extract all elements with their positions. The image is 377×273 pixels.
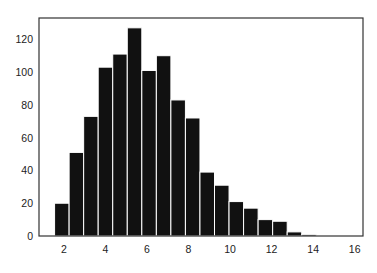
y-tick-label: 120 bbox=[15, 33, 33, 45]
histogram-bar bbox=[98, 67, 113, 236]
histogram-bar bbox=[142, 70, 157, 236]
histogram-bar bbox=[200, 172, 215, 236]
x-tick-label: 2 bbox=[61, 243, 67, 255]
y-axis-ticks: 020406080100120 bbox=[15, 33, 33, 242]
y-tick-label: 0 bbox=[27, 230, 33, 242]
histogram-bar bbox=[156, 56, 171, 236]
x-tick-label: 6 bbox=[144, 243, 150, 255]
y-tick-label: 60 bbox=[21, 132, 33, 144]
histogram-bar bbox=[273, 221, 288, 236]
histogram-bar bbox=[84, 116, 99, 236]
y-tick-label: 80 bbox=[21, 99, 33, 111]
y-tick-label: 40 bbox=[21, 164, 33, 176]
x-tick-label: 14 bbox=[307, 243, 319, 255]
y-tick-label: 20 bbox=[21, 197, 33, 209]
x-axis-ticks: 246810121416 bbox=[61, 243, 361, 255]
histogram-bar bbox=[244, 208, 259, 236]
histogram-bar bbox=[113, 54, 128, 236]
histogram-bar bbox=[55, 203, 70, 236]
histogram-bar bbox=[171, 100, 186, 236]
x-tick-label: 4 bbox=[103, 243, 109, 255]
histogram-bars bbox=[55, 28, 317, 236]
histogram-bar bbox=[229, 202, 244, 236]
x-tick-label: 16 bbox=[349, 243, 361, 255]
histogram-chart: 020406080100120 246810121416 bbox=[0, 0, 377, 273]
x-tick-label: 8 bbox=[186, 243, 192, 255]
histogram-bar bbox=[69, 152, 84, 236]
histogram-bar bbox=[127, 28, 142, 236]
x-tick-label: 12 bbox=[266, 243, 278, 255]
histogram-bar bbox=[185, 118, 200, 236]
histogram-bar bbox=[258, 220, 273, 236]
y-tick-label: 100 bbox=[15, 66, 33, 78]
histogram-bar bbox=[287, 232, 302, 236]
histogram-bar bbox=[215, 185, 230, 236]
x-tick-label: 10 bbox=[224, 243, 236, 255]
